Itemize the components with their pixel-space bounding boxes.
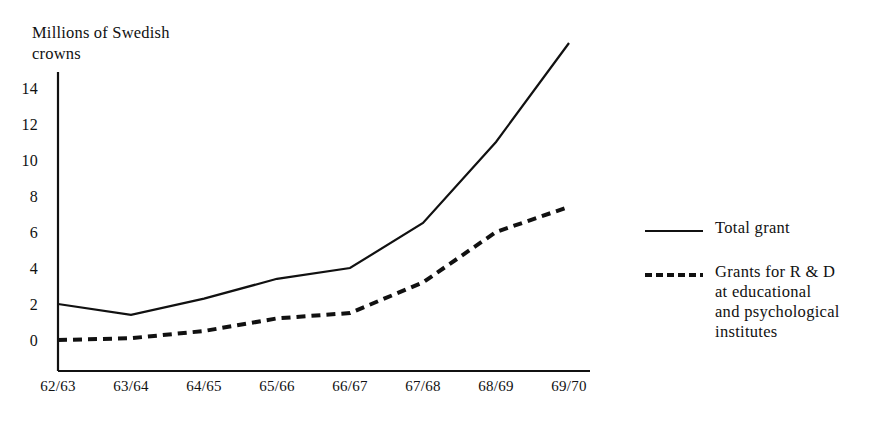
legend-item-total-grant: Total grant: [645, 218, 870, 240]
series-line-total-grant: [58, 43, 569, 315]
legend-dashed-line-icon: [645, 268, 703, 284]
legend-solid-line-icon: [645, 224, 703, 240]
legend-label-rd-grant: Grants for R & D at educational and psyc…: [715, 262, 840, 342]
chart-figure: Millions of Swedish crowns 14 12 10 8 6 …: [0, 0, 875, 421]
chart-legend: Total grant Grants for R & D at educatio…: [645, 218, 870, 364]
legend-item-rd-grant: Grants for R & D at educational and psyc…: [645, 262, 870, 342]
legend-label-total-grant: Total grant: [715, 218, 790, 238]
